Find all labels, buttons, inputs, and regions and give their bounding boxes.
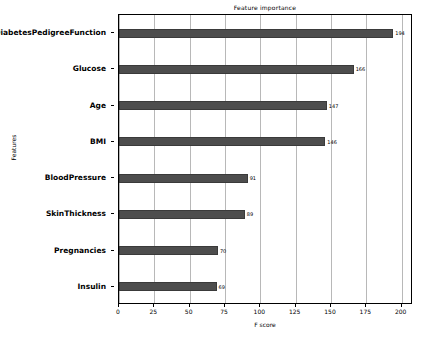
- x-tick-mark: [365, 304, 366, 307]
- y-tick-label: Age: [90, 100, 106, 109]
- y-tick-mark: [111, 177, 114, 178]
- bar: [119, 101, 327, 110]
- y-tick-mark: [111, 105, 114, 106]
- y-tick-mark: [111, 68, 114, 69]
- y-tick-label: Pregnancies: [54, 245, 106, 254]
- x-axis-tick-labels: 0255075100125150175200: [118, 304, 412, 318]
- x-tick-mark: [118, 304, 119, 307]
- x-tick-mark: [224, 304, 225, 307]
- chart-title: Feature importance: [118, 4, 412, 11]
- bar: [119, 65, 354, 74]
- x-tick-label: 100: [254, 308, 265, 315]
- y-tick-mark: [111, 213, 114, 214]
- bar-value-label: 91: [250, 175, 256, 181]
- bar-value-label: 147: [329, 103, 339, 109]
- x-tick-label: 200: [395, 308, 406, 315]
- bar: [119, 29, 393, 38]
- x-tick-label: 150: [324, 308, 335, 315]
- y-tick-mark: [111, 32, 114, 33]
- x-axis-label: F score: [118, 321, 412, 328]
- x-tick-mark: [189, 304, 190, 307]
- gridline: [225, 15, 226, 303]
- bar: [119, 174, 248, 183]
- bar-value-label: 89: [247, 211, 253, 217]
- y-tick-label: SkinThickness: [46, 209, 106, 218]
- x-tick-label: 175: [360, 308, 371, 315]
- feature-importance-chart: Feature importance Features F score Diab…: [0, 0, 428, 339]
- gridline: [154, 15, 155, 303]
- bar-value-label: 194: [395, 30, 405, 36]
- x-tick-mark: [401, 304, 402, 307]
- y-axis-tick-labels: DiabetesPedigreeFunctionGlucoseAgeBMIBlo…: [0, 14, 114, 304]
- x-tick-label: 0: [116, 308, 120, 315]
- gridline: [402, 15, 403, 303]
- x-tick-label: 25: [150, 308, 158, 315]
- gridline: [119, 15, 120, 303]
- y-tick-mark: [111, 286, 114, 287]
- x-tick-mark: [259, 304, 260, 307]
- gridline: [366, 15, 367, 303]
- bar-value-label: 166: [356, 66, 366, 72]
- y-tick-label: BloodPressure: [45, 173, 106, 182]
- x-tick-label: 75: [220, 308, 228, 315]
- bar: [119, 210, 245, 219]
- plot-area: 19416614714691897069: [118, 14, 412, 304]
- x-tick-mark: [295, 304, 296, 307]
- y-tick-mark: [111, 250, 114, 251]
- bar-value-label: 70: [220, 248, 226, 254]
- gridline: [331, 15, 332, 303]
- gridline: [296, 15, 297, 303]
- y-tick-label: BMI: [90, 136, 106, 145]
- bar: [119, 137, 325, 146]
- y-tick-label: Insulin: [78, 281, 106, 290]
- bar: [119, 282, 217, 291]
- gridline: [190, 15, 191, 303]
- x-tick-mark: [153, 304, 154, 307]
- x-tick-label: 50: [185, 308, 193, 315]
- bar-value-label: 69: [219, 284, 225, 290]
- bar-value-label: 146: [327, 139, 337, 145]
- y-tick-label: DiabetesPedigreeFunction: [0, 28, 106, 37]
- gridline: [260, 15, 261, 303]
- x-tick-mark: [330, 304, 331, 307]
- y-tick-label: Glucose: [73, 64, 106, 73]
- y-tick-mark: [111, 141, 114, 142]
- x-tick-label: 125: [289, 308, 300, 315]
- bar: [119, 246, 218, 255]
